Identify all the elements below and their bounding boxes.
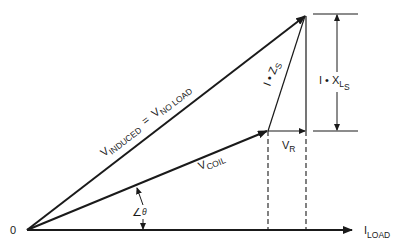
- v-induced-label: VINDUCED=VNO LOAD: [98, 82, 194, 161]
- i-load-label: ILOAD: [364, 224, 390, 240]
- angle-label: ∠θ: [132, 206, 147, 218]
- i-zs-label: I • ZS: [261, 59, 285, 88]
- origin-label: 0: [10, 224, 16, 236]
- v-induced-vector: [27, 16, 305, 230]
- phasor-diagram: ILOAD 0 VINDUCED=VNO LOAD VCOIL VR I • Z…: [0, 0, 407, 252]
- v-r-label: VR: [282, 139, 295, 154]
- angle-arrow-up: [137, 188, 143, 205]
- v-coil-vector: [27, 131, 267, 230]
